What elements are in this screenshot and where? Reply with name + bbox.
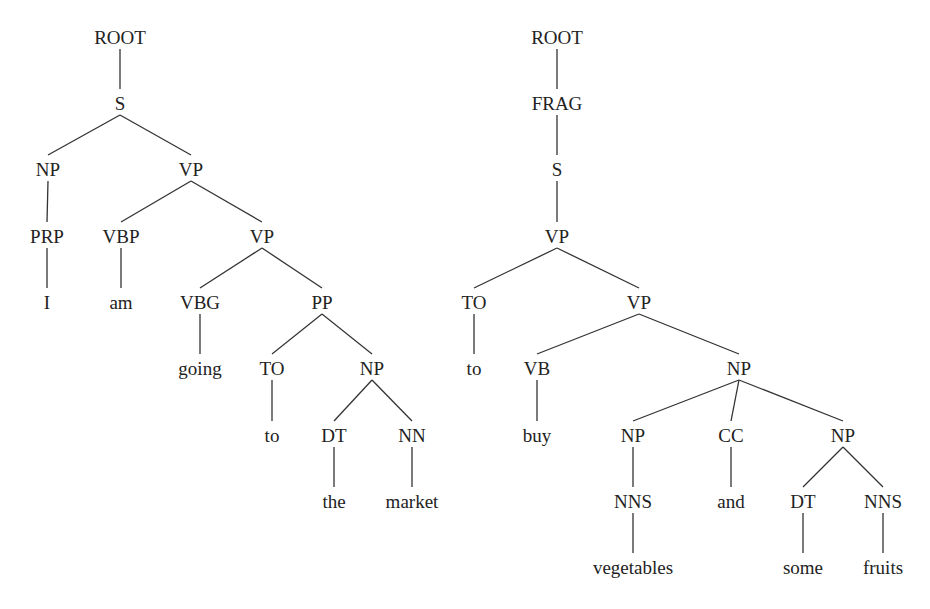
- tree-node-market: market: [386, 492, 439, 511]
- tree-node-np: NP: [36, 160, 60, 179]
- tree-node-nn: NN: [398, 426, 425, 445]
- tree-node-np: NP: [831, 426, 855, 445]
- tree-node-prp: PRP: [30, 227, 64, 246]
- tree-node-and: and: [717, 492, 744, 511]
- tree-node-s: S: [552, 160, 563, 179]
- tree-node-vbp: VBP: [103, 227, 140, 246]
- tree-node-nns: NNS: [864, 492, 902, 511]
- tree-node-to: to: [265, 426, 280, 445]
- tree-node-vp: VP: [545, 227, 569, 246]
- tree-node-root: ROOT: [94, 28, 146, 47]
- tree-edge: [474, 248, 557, 288]
- tree-node-root: ROOT: [531, 28, 583, 47]
- tree-node-pp: PP: [311, 293, 332, 312]
- tree-edge: [557, 248, 639, 288]
- tree-node-np: NP: [621, 426, 645, 445]
- tree-node-vb: VB: [524, 359, 550, 378]
- tree-edge: [633, 380, 739, 421]
- tree-edge: [47, 181, 48, 222]
- tree-edge: [803, 447, 843, 487]
- tree-edge: [200, 248, 262, 288]
- tree-edge: [121, 181, 191, 222]
- tree-node-to: TO: [462, 293, 487, 312]
- tree-edge: [334, 380, 372, 421]
- tree-edge: [731, 380, 739, 421]
- tree-edge: [262, 248, 322, 288]
- tree-edge: [372, 380, 412, 421]
- tree-node-np: NP: [360, 359, 384, 378]
- tree-node-vp: VP: [179, 160, 203, 179]
- tree-node-am: am: [109, 293, 132, 312]
- tree-node-some: some: [783, 558, 823, 577]
- parse-tree-diagram: ROOTSNPVPPRPVBPVPIamVBGPPgoingTONPtoDTNN…: [0, 0, 930, 609]
- tree-node-buy: buy: [523, 426, 552, 445]
- tree-node-vp: VP: [627, 293, 651, 312]
- tree-edge: [48, 115, 120, 155]
- tree-edge: [537, 314, 639, 354]
- tree-edge: [272, 314, 322, 354]
- tree-node-np: NP: [727, 359, 751, 378]
- tree-edge: [639, 314, 739, 354]
- tree-edge: [739, 380, 843, 421]
- tree-node-going: going: [178, 359, 221, 378]
- tree-node-dt: DT: [790, 492, 815, 511]
- tree-node-cc: CC: [718, 426, 743, 445]
- tree-edge: [120, 115, 191, 155]
- tree-node-frag: FRAG: [532, 94, 583, 113]
- tree-node-nns: NNS: [614, 492, 652, 511]
- tree-node-to: TO: [260, 359, 285, 378]
- tree-node-dt: DT: [321, 426, 346, 445]
- tree-node-vp: VP: [250, 227, 274, 246]
- tree-node-s: S: [115, 94, 126, 113]
- tree-edge: [322, 314, 372, 354]
- tree-node-the: the: [322, 492, 345, 511]
- tree-node-to: to: [467, 359, 482, 378]
- tree-edge: [843, 447, 883, 487]
- tree-node-vbg: VBG: [180, 293, 220, 312]
- tree-edge: [191, 181, 262, 222]
- tree-node-fruits: fruits: [863, 558, 903, 577]
- tree-node-vegetables: vegetables: [593, 558, 673, 577]
- tree-node-i: I: [44, 293, 50, 312]
